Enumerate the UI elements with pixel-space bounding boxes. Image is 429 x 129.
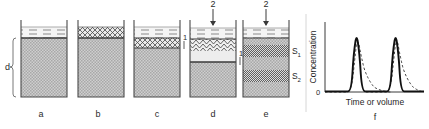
column-a: d a [5,20,67,119]
figure-chromatography-columns-and-chromatogram: d a b 1 c 2 1 d [0,0,429,129]
chart-panel-caption: f [374,112,377,122]
column-b-caption: b [95,109,100,119]
chart-sharp-peaks-series [325,38,424,91]
column-d-bed [190,62,236,97]
column-d-zigzag-zone [190,39,236,51]
column-d-clear-zone [190,51,236,62]
column-e-caption: e [263,109,268,119]
column-d-caption: d [210,109,215,119]
column-d: 2 1 d [190,0,243,119]
column-c-marker-label: 1 [183,33,187,42]
column-a-depth-bracket [10,38,16,97]
column-e-inlet-label: 2 [263,0,268,9]
column-d-liquid [190,28,236,39]
column-a-bed [21,38,67,97]
column-c-sample-zone [134,38,180,48]
column-b-bed [78,38,124,97]
column-e-solute-sub-1: 1 [298,52,302,58]
column-a-caption: a [38,109,43,119]
column-a-liquid [21,27,67,38]
column-c: 1 c [134,20,187,119]
chart-origin-tick-label: 0 [316,88,320,97]
column-e-solute-sub-2: 2 [298,77,302,83]
chart-tailing-peak-2 [366,42,424,92]
column-e-solute-band-1 [243,45,289,57]
column-e: 2 S 1 S 2 e [243,0,302,119]
column-e-inlet-arrow-head [263,21,269,26]
column-c-liquid [134,27,180,38]
column-d-inlet-label: 2 [210,0,215,9]
column-b-sample-zone [78,27,124,38]
column-c-bed [134,48,180,97]
chromatogram-chart: 0 Concentration Time or volume f [308,22,424,122]
chart-x-axis-label: Time or volume [346,97,405,107]
chart-y-axis-label: Concentration [308,30,318,83]
column-b: b [78,20,124,119]
column-a-depth-label: d [5,62,10,72]
column-c-caption: c [155,109,160,119]
column-e-solute-band-2 [243,70,289,82]
column-d-inlet-arrow-head [210,21,216,26]
column-e-liquid [243,28,289,38]
